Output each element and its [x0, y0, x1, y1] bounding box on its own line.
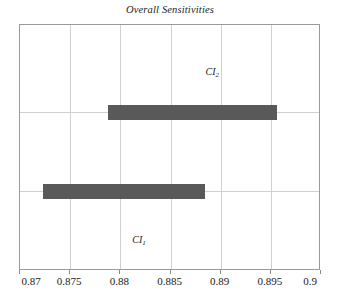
x-tick-label: 0.895 — [257, 275, 282, 287]
x-tick-mark — [19, 270, 20, 274]
ci-bar-ci_2 — [108, 105, 277, 120]
x-tick-mark — [69, 270, 70, 274]
annotation-ci_2: CI2 — [206, 66, 220, 77]
x-tick-label: 0.87 — [21, 275, 40, 287]
x-tick-mark — [119, 270, 120, 274]
x-tick-mark — [270, 270, 271, 274]
annotation-label-main: CI — [206, 66, 216, 77]
x-tick-label: 0.885 — [157, 275, 182, 287]
annotation-label-sub: 1 — [142, 239, 146, 247]
page-title: Overall Sensitivities — [0, 4, 340, 15]
gridline-vertical — [171, 25, 172, 269]
x-tick-mark — [220, 270, 221, 274]
gridline-vertical — [221, 25, 222, 269]
x-tick-mark — [170, 270, 171, 274]
x-tick-label: 0.88 — [110, 275, 129, 287]
chart-figure: Overall Sensitivities CI2CI1 0.870.8750.… — [0, 0, 340, 296]
annotation-label-sub: 2 — [216, 71, 220, 79]
gridline-vertical — [271, 25, 272, 269]
x-tick-label: 0.89 — [210, 275, 229, 287]
gridline-vertical — [70, 25, 71, 269]
x-tick-mark — [320, 270, 321, 274]
annotation-ci_1: CI1 — [132, 234, 146, 245]
ci-bar-ci_1 — [43, 184, 205, 199]
plot-inner: CI2CI1 — [20, 25, 319, 269]
annotation-label-main: CI — [132, 234, 142, 245]
x-tick-label: 0.875 — [57, 275, 82, 287]
plot-area: CI2CI1 — [19, 24, 320, 270]
gridline-vertical — [120, 25, 121, 269]
x-tick-label: 0.9 — [303, 275, 317, 287]
